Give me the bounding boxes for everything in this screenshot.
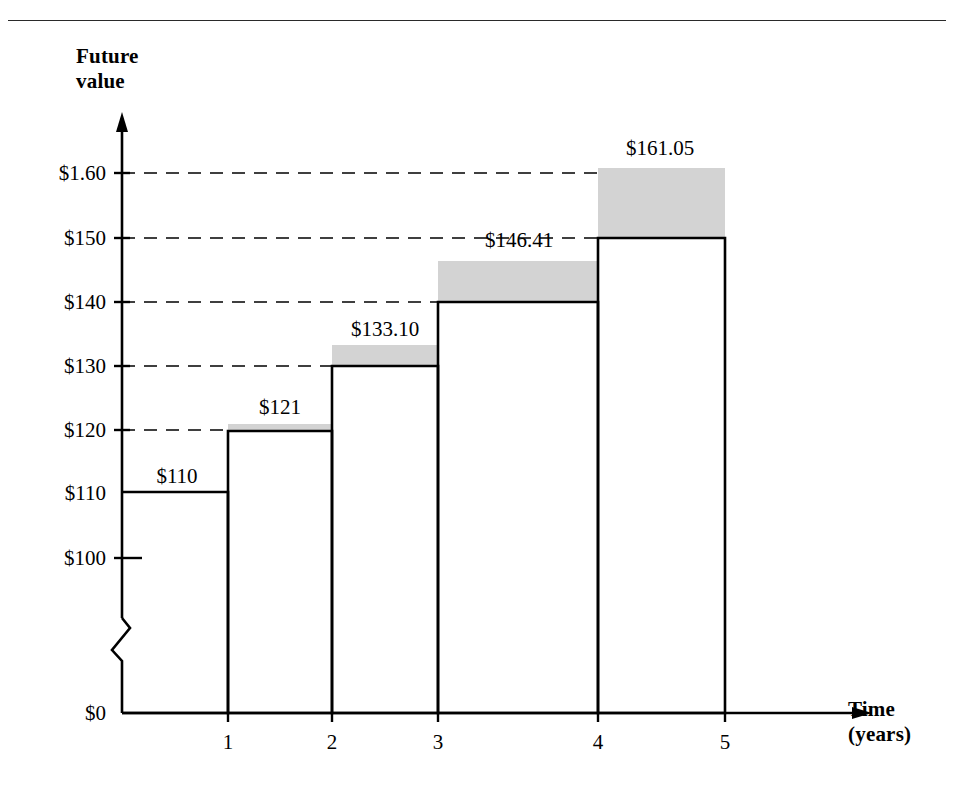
bar-year2	[228, 431, 332, 713]
bar-year3	[332, 366, 438, 713]
y-axis-title: Future value	[76, 44, 139, 94]
shaded-cap-year3	[332, 345, 438, 366]
shaded-cap-year4	[438, 261, 598, 302]
future-value-chart-figure: Future value Time (years) $1.60 $150 $14…	[0, 0, 954, 788]
shaded-interest-regions	[228, 168, 725, 431]
y-axis	[112, 112, 142, 713]
bar-value-label-year1: $110	[125, 464, 229, 489]
y-tick-label-150: $150	[20, 226, 106, 251]
bar-year4	[438, 302, 598, 713]
x-tick-label-1: 1	[198, 730, 258, 755]
shaded-cap-year5	[598, 168, 725, 238]
x-axis-title-line1: Time	[848, 697, 911, 722]
y-tick-label-140: $140	[20, 290, 106, 315]
x-tick-label-3: 3	[408, 730, 468, 755]
y-axis-arrowhead	[116, 112, 128, 132]
y-tick-label-120: $120	[20, 418, 106, 443]
y-axis-title-line2: value	[76, 69, 139, 94]
bar-value-label-year4: $146.41	[440, 228, 598, 253]
y-tick-label-0: $0	[20, 701, 106, 726]
x-axis-title: Time (years)	[848, 697, 911, 747]
y-tick-label-100: $100	[20, 546, 106, 571]
bar-value-label-year3: $133.10	[330, 317, 440, 342]
y-tick-label-160: $1.60	[20, 161, 106, 186]
x-tick-label-2: 2	[302, 730, 362, 755]
x-axis-ticks	[228, 713, 725, 722]
y-axis-break-zigzag	[112, 618, 130, 713]
y-axis-ticks	[114, 173, 142, 558]
chart-canvas	[0, 0, 954, 788]
y-tick-label-130: $130	[20, 354, 106, 379]
bar-value-label-year5: $161.05	[595, 136, 725, 161]
y-axis-title-line1: Future	[76, 44, 139, 69]
x-tick-label-4: 4	[568, 730, 628, 755]
bar-year1	[122, 492, 228, 713]
x-axis	[122, 707, 872, 722]
x-tick-label-5: 5	[695, 730, 755, 755]
x-axis-title-line2: (years)	[848, 722, 911, 747]
y-tick-label-110: $110	[20, 481, 106, 506]
bar-year5	[598, 238, 725, 713]
bar-value-label-year2: $121	[228, 395, 332, 420]
